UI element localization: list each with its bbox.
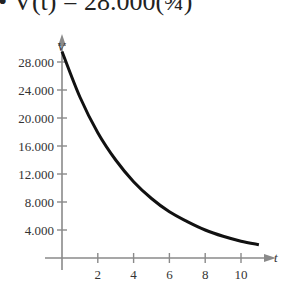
x-tick-label: 8 <box>202 267 209 282</box>
y-tick-label: 4.000 <box>25 223 54 238</box>
y-tick-label: 28.000 <box>18 55 54 70</box>
y-tick-label: 12.000 <box>18 167 54 182</box>
x-tick-label: 4 <box>130 267 137 282</box>
x-axis-label: t <box>274 250 278 265</box>
x-tick-label: 10 <box>235 267 248 282</box>
y-tick: 20.000 <box>18 111 67 126</box>
axes <box>45 34 276 270</box>
y-tick: 24.000 <box>18 83 67 98</box>
y-tick: 8.000 <box>25 195 67 210</box>
y-tick: 12.000 <box>18 167 67 182</box>
ticks: 2468104.0008.00012.00016.00020.00024.000… <box>18 55 247 283</box>
y-tick-label: 8.000 <box>25 195 54 210</box>
y-tick-label: 20.000 <box>18 111 54 126</box>
chart-figure: • V(t) = 28.000(¾) 2468104.0008.00012.00… <box>0 0 284 290</box>
y-tick-label: 16.000 <box>18 139 54 154</box>
y-tick: 16.000 <box>18 139 67 154</box>
y-axis-label: V <box>57 39 67 54</box>
decay-curve <box>62 52 259 245</box>
x-tick-label: 2 <box>95 267 102 282</box>
x-tick-label: 6 <box>166 267 173 282</box>
plot-area: 2468104.0008.00012.00016.00020.00024.000… <box>0 0 284 290</box>
y-tick-label: 24.000 <box>18 83 54 98</box>
y-tick: 28.000 <box>18 55 67 70</box>
y-tick: 4.000 <box>25 223 67 238</box>
